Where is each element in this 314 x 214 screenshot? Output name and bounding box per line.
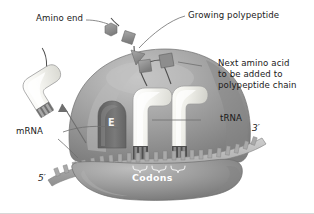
label-three-prime: 3′ <box>252 123 260 133</box>
label-growing-polypeptide: Growing polypeptide <box>188 10 279 20</box>
label-mrna: mRNA <box>16 126 43 136</box>
bottom-divider <box>0 213 314 214</box>
label-codons: Codons <box>132 173 173 183</box>
label-next-amino-acid-line3: polypeptide chain <box>218 80 297 90</box>
amino-acid-square <box>122 31 136 45</box>
label-next-amino-acid-line2: to be added to <box>218 69 283 79</box>
amino-acid-square-p <box>138 59 152 73</box>
label-five-prime: 5′ <box>38 173 46 183</box>
next-amino-acid-square <box>159 53 174 68</box>
label-e-site: E <box>108 118 115 128</box>
label-trna: tRNA <box>220 113 242 123</box>
label-amino-end: Amino end <box>36 13 83 23</box>
translation-diagram: Amino end Growing polypeptide Next amino… <box>0 0 314 214</box>
departing-trna <box>10 46 76 118</box>
label-next-amino-acid-line1: Next amino acid <box>218 58 290 68</box>
leader-amino-end <box>86 20 108 24</box>
amino-acid-hexagon <box>105 23 117 36</box>
leader-growing-polypeptide <box>139 16 185 48</box>
